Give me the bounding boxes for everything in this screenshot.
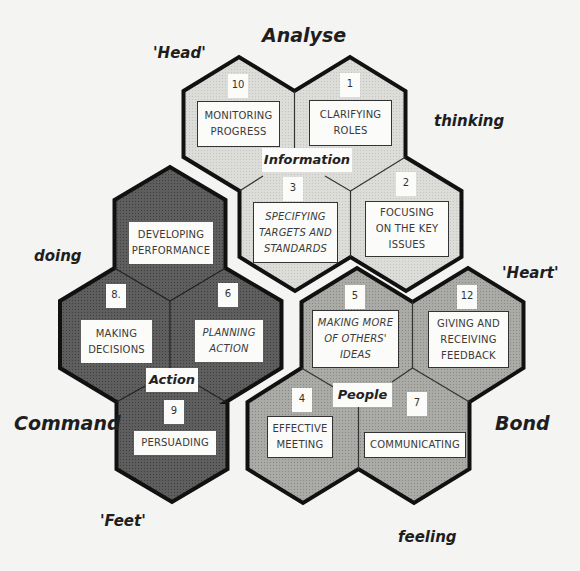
label-thinking: thinking xyxy=(434,112,504,130)
hex-text: PERSUADING xyxy=(141,435,209,451)
hex-number: 5 xyxy=(345,285,365,309)
hex-number: 2 xyxy=(396,172,416,196)
hex-number: 8. xyxy=(106,284,126,308)
cluster-label-action: Action xyxy=(146,368,198,392)
hexagon-diagram xyxy=(0,0,580,571)
hex-label-developing-performance: DEVELOPING PERFORMANCE xyxy=(129,222,213,264)
hex-label-communicating: COMMUNICATING xyxy=(364,432,466,458)
label-heart: 'Heart' xyxy=(502,264,559,282)
hex-label-making-more-of-others-ideas: MAKING MORE OF OTHERS' IDEAS xyxy=(312,310,399,368)
hex-text: DEVELOPING PERFORMANCE xyxy=(131,227,211,259)
hex-label-planning-action: PLANNING ACTION xyxy=(195,320,263,362)
hex-label-clarifying-roles: CLARIFYING ROLES xyxy=(309,100,392,146)
hex-number: 1 xyxy=(340,73,360,97)
label-doing: doing xyxy=(34,247,82,265)
hex-text: SPECIFYING TARGETS AND STANDARDS xyxy=(259,209,333,257)
hex-label-persuading: PERSUADING xyxy=(134,431,216,455)
hex-text: COMMUNICATING xyxy=(370,437,460,453)
hex-label-making-decisions: MAKING DECISIONS xyxy=(81,320,152,363)
hex-text: GIVING AND RECEIVING FEEDBACK xyxy=(434,316,504,364)
label-bond: Bond xyxy=(495,412,550,434)
hex-label-effective-meeting: EFFECTIVE MEETING xyxy=(267,416,333,458)
hex-number: 6 xyxy=(218,283,238,307)
hex-number: 4 xyxy=(292,388,312,412)
hex-number: 10 xyxy=(228,74,248,98)
label-analyse: Analyse xyxy=(262,24,346,46)
label-feet: 'Feet' xyxy=(100,512,146,530)
hex-number: 9 xyxy=(164,400,184,424)
hex-text: MAKING MORE OF OTHERS' IDEAS xyxy=(317,315,395,363)
hex-text: PLANNING ACTION xyxy=(199,325,259,357)
hex-text: MAKING DECISIONS xyxy=(85,326,149,358)
hex-number: 7 xyxy=(407,392,427,416)
hex-label-giving-receiving-feedback: GIVING AND RECEIVING FEEDBACK xyxy=(428,311,509,368)
cluster-label-information: Information xyxy=(262,148,352,172)
hex-number: 12 xyxy=(457,285,477,309)
hex-label-specifying-targets: SPECIFYING TARGETS AND STANDARDS xyxy=(253,202,338,263)
hex-text: MONITORING PROGRESS xyxy=(204,108,274,140)
cluster-label-people: People xyxy=(333,383,392,407)
hex-label-monitoring-progress: MONITORING PROGRESS xyxy=(197,101,280,147)
hex-label-focusing-key-issues: FOCUSING ON THE KEY ISSUES xyxy=(365,201,449,257)
label-feeling: feeling xyxy=(398,528,457,546)
label-command: Command xyxy=(14,412,121,434)
label-head: 'Head' xyxy=(153,44,206,62)
hex-text: EFFECTIVE MEETING xyxy=(271,421,329,453)
hex-text: CLARIFYING ROLES xyxy=(316,107,386,139)
hex-number: 3 xyxy=(283,177,303,201)
hex-text: FOCUSING ON THE KEY ISSUES xyxy=(372,205,442,253)
